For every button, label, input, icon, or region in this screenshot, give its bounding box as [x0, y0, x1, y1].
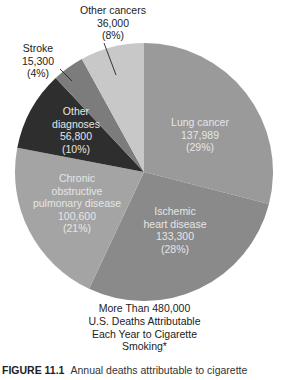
label-ischemic-heart-disease: Ischemic heart disease 133,300 (28%) — [130, 205, 220, 255]
label-value: 36,000 — [58, 17, 168, 30]
label-name-2: obstructive — [22, 185, 132, 198]
label-percent: (29%) — [160, 141, 240, 154]
label-name: Stroke — [8, 42, 68, 55]
label-other-cancers: Other cancers 36,000 (8%) — [58, 4, 168, 42]
summary-line: Smoking* — [0, 340, 289, 353]
label-value: 100,600 — [22, 210, 132, 223]
label-lung-cancer: Lung cancer 137,989 (29%) — [160, 116, 240, 154]
label-value: 15,300 — [8, 55, 68, 68]
label-percent: (28%) — [130, 243, 220, 256]
label-name-2: diagnoses — [36, 118, 116, 131]
label-stroke: Stroke 15,300 (4%) — [8, 42, 68, 80]
label-copd: Chronic obstructive pulmonary disease 10… — [22, 172, 132, 235]
figure-caption: FIGURE 11.1Annual deaths attributable to… — [2, 364, 247, 376]
caption-text: Annual deaths attributable to cigarette — [70, 364, 247, 376]
label-name-3: pulmonary disease — [22, 197, 132, 210]
summary-line: More Than 480,000 — [0, 302, 289, 315]
label-percent: (21%) — [22, 222, 132, 235]
label-name: Ischemic — [130, 205, 220, 218]
label-name: Other — [36, 105, 116, 118]
label-other-diagnoses: Other diagnoses 56,800 (10%) — [36, 105, 116, 155]
label-name: Lung cancer — [160, 116, 240, 129]
label-value: 137,989 — [160, 129, 240, 142]
label-percent: (4%) — [8, 67, 68, 80]
figure-number: FIGURE 11.1 — [2, 364, 64, 376]
label-percent: (10%) — [36, 143, 116, 156]
label-name-2: heart disease — [130, 218, 220, 231]
chart-summary-title: More Than 480,000 U.S. Deaths Attributab… — [0, 302, 289, 353]
label-name: Chronic — [22, 172, 132, 185]
label-value: 133,300 — [130, 230, 220, 243]
label-percent: (8%) — [58, 29, 168, 42]
summary-line: Each Year to Cigarette — [0, 328, 289, 341]
label-value: 56,800 — [36, 130, 116, 143]
label-name: Other cancers — [58, 4, 168, 17]
summary-line: U.S. Deaths Attributable — [0, 315, 289, 328]
